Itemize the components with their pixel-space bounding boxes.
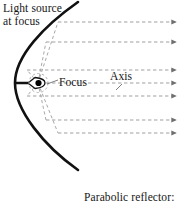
incident-ray: [38, 83, 46, 120]
caption-line-1: Parabolic reflector:: [84, 191, 174, 204]
incident-ray: [38, 42, 46, 83]
figure-caption: Parabolic reflector: Light is reflected …: [84, 166, 174, 209]
incident-ray: [38, 22, 58, 83]
label-axis: Axis: [110, 70, 132, 83]
label-focus: Focus: [59, 76, 87, 89]
parallel-ray-group: [22, 22, 176, 133]
label-light-source: Light source at focus: [3, 2, 62, 27]
focus-dot: [35, 80, 41, 86]
axis-leader-line: [116, 84, 122, 90]
incident-ray-group: [27, 22, 58, 133]
incident-ray: [38, 83, 58, 133]
parabolic-reflector-figure: Light source at focus Focus Axis Parabol…: [0, 0, 188, 209]
